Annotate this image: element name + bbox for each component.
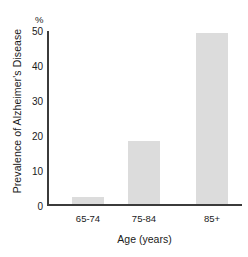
y-tick-label-20: 20 [32,131,43,142]
plot-area: 0 10 20 30 40 50 65-74 75-84 85+ [47,31,242,206]
bar-chart: Prevalence of Alzheimer's Disease % 0 10… [0,0,248,257]
y-axis-line [47,31,49,206]
x-tick-label-65-74: 65-74 [76,213,100,224]
y-axis-title: Prevalence of Alzheimer's Disease [11,11,23,211]
y-tick-label-10: 10 [32,166,43,177]
bar-65-74 [72,197,104,204]
y-tick-label-50: 50 [32,26,43,37]
x-tick-label-75-84: 75-84 [132,213,156,224]
y-tick-label-30: 30 [32,96,43,107]
y-axis-unit-label: % [35,14,43,25]
y-tick-label-0: 0 [37,201,43,212]
x-axis-title: Age (years) [47,233,242,245]
x-axis-line [47,204,242,206]
y-tick-label-40: 40 [32,61,43,72]
x-tick-label-85-plus: 85+ [204,213,220,224]
bar-75-84 [128,141,160,204]
bar-85-plus [196,33,228,205]
